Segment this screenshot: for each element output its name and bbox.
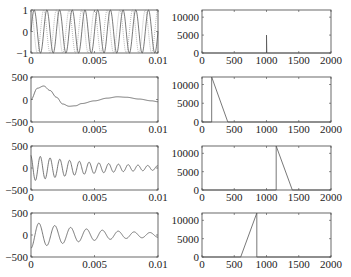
y-tick-label: 500 [12,71,29,83]
axes-box [31,146,158,190]
x-tick-label: 0.005 [82,123,107,135]
y-tick-label: −500 [5,184,28,196]
x-tick-label: 1500 [288,258,311,270]
y-tick-label: 0 [23,162,29,174]
axes-box [202,77,331,122]
y-tick-label: 5000 [177,97,200,109]
chart-panel-row1-right: 05001000150020001000050000 [172,10,343,66]
x-tick-label: 0 [199,258,205,270]
x-tick-label: 1500 [288,54,311,66]
x-tick-label: 1000 [256,54,279,66]
chart-panel-row1-left: 00.0050.0110−1 [16,4,167,66]
chart-panel-row2-right: 05001000150020001000050000 [172,77,343,135]
x-tick-label: 1000 [256,191,279,203]
axes-box [31,213,158,257]
x-tick-label: 0.005 [82,54,107,66]
x-tick-label: 0 [199,54,205,66]
axes-box [202,146,331,190]
x-tick-label: 2000 [320,191,343,203]
y-tick-label: −1 [16,47,28,59]
y-tick-label: 0 [194,251,200,263]
chart-panel-row4-right: 05001000150020001000050000 [172,213,343,270]
x-tick-label: 2000 [320,258,343,270]
figure-canvas: 00.0050.0110−105001000150020001000050000… [0,0,351,277]
x-tick-label: 0.01 [148,54,167,66]
x-tick-label: 1500 [288,123,311,135]
y-tick-label: −500 [5,251,28,263]
y-tick-label: 5000 [177,29,200,41]
x-tick-label: 0.01 [148,123,167,135]
y-tick-label: 5000 [177,166,200,178]
y-tick-label: 0 [194,184,200,196]
chart-panel-row4-left: 00.0050.015000−500 [5,207,167,270]
x-tick-label: 0.005 [82,191,107,203]
x-tick-label: 500 [226,258,243,270]
y-tick-label: 0 [23,26,29,38]
y-tick-label: 1 [23,4,29,16]
y-tick-label: 10000 [172,214,200,226]
x-tick-label: 500 [226,123,243,135]
y-tick-label: 10000 [172,147,200,159]
x-tick-label: 0 [28,54,34,66]
x-tick-label: 0 [28,123,34,135]
x-tick-label: 500 [226,191,243,203]
chart-panel-row3-right: 05001000150020001000050000 [172,146,343,203]
y-tick-label: 0 [23,229,29,241]
y-tick-label: 0 [194,47,200,59]
axes-box [202,213,331,257]
x-tick-label: 1500 [288,191,311,203]
x-tick-label: 1000 [256,123,279,135]
x-tick-label: 0 [28,191,34,203]
x-tick-label: 500 [226,54,243,66]
axes-box [31,77,158,122]
y-tick-label: 500 [12,140,29,152]
y-tick-label: 0 [23,94,29,106]
x-tick-label: 0 [199,191,205,203]
x-tick-label: 2000 [320,123,343,135]
x-tick-label: 0.01 [148,258,167,270]
y-tick-label: 0 [194,116,200,128]
chart-panel-row3-left: 00.0050.015000−500 [5,140,167,203]
y-tick-label: 10000 [172,79,200,91]
x-tick-label: 0.01 [148,191,167,203]
x-tick-label: 2000 [320,54,343,66]
y-tick-label: 5000 [177,233,200,245]
y-tick-label: 10000 [172,11,200,23]
y-tick-label: 500 [12,207,29,219]
x-tick-label: 0.005 [82,258,107,270]
y-tick-label: −500 [5,116,28,128]
chart-panel-row2-left: 00.0050.015000−500 [5,71,167,135]
x-tick-label: 1000 [256,258,279,270]
x-tick-label: 0 [199,123,205,135]
x-tick-label: 0 [28,258,34,270]
